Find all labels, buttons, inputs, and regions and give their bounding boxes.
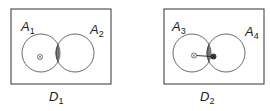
set-a3-circle <box>173 34 211 72</box>
label-a4: A4 <box>244 24 259 41</box>
label-a3: A3 <box>171 19 186 36</box>
diagram-d1: A1 A2 D1 <box>11 9 111 106</box>
set-a1-circle <box>22 34 60 72</box>
label-a1: A1 <box>20 19 35 36</box>
caption-d2: D2 <box>200 89 214 106</box>
circled-x-marker-icon <box>37 54 42 59</box>
label-a2: A2 <box>89 22 104 39</box>
diagram-d2: A3 A4 D2 <box>164 9 264 106</box>
caption-d1: D1 <box>49 89 63 106</box>
set-a2-circle <box>56 34 94 72</box>
target-marker-icon <box>211 54 216 59</box>
venn-diagrams-figure: A1 A2 D1 A3 A4 D2 <box>0 0 270 111</box>
set-a4-circle <box>207 34 245 72</box>
circled-x-marker-icon <box>191 53 196 58</box>
